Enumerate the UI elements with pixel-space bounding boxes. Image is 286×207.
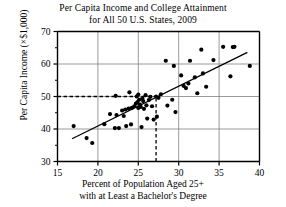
data-point <box>179 73 183 77</box>
data-point <box>221 45 225 49</box>
data-point <box>113 126 117 130</box>
data-point <box>172 64 176 68</box>
data-point <box>248 64 252 68</box>
x-axis-label-line-1: Percent of Population Aged 25+ <box>0 178 286 190</box>
data-point <box>145 117 149 121</box>
data-point <box>188 59 192 63</box>
data-point <box>193 75 197 79</box>
data-point <box>141 99 145 103</box>
data-point <box>142 107 146 111</box>
y-tick-label: 70 <box>41 27 51 37</box>
x-tick-label: 40 <box>255 168 265 178</box>
x-tick-label: 15 <box>53 168 63 178</box>
data-point <box>143 93 147 97</box>
x-tick-label: 25 <box>134 168 144 178</box>
data-point <box>170 98 174 102</box>
data-point <box>211 58 215 62</box>
y-tick-label: 30 <box>41 157 51 167</box>
data-point <box>195 91 199 95</box>
data-point <box>122 114 126 118</box>
data-point <box>173 110 177 114</box>
data-point <box>156 96 160 100</box>
data-point <box>228 74 232 78</box>
data-point <box>90 141 94 145</box>
data-point <box>108 112 112 116</box>
data-point <box>148 95 152 99</box>
scatter-plot-canvas: 3040506070152025303540 <box>0 0 286 207</box>
data-point <box>114 113 118 117</box>
data-point <box>155 115 159 119</box>
data-point <box>186 81 190 85</box>
data-point <box>150 104 154 108</box>
data-point <box>144 103 148 107</box>
data-point <box>72 124 76 128</box>
x-axis-label: Percent of Population Aged 25+ with at L… <box>0 178 286 202</box>
data-point <box>184 86 188 90</box>
chart-figure: Per Capita Income and College Attainment… <box>0 0 286 207</box>
data-point <box>129 122 133 126</box>
data-point <box>136 92 140 96</box>
x-tick-label: 20 <box>93 168 103 178</box>
y-tick-label: 50 <box>41 92 51 102</box>
data-point <box>165 104 169 108</box>
data-points <box>72 45 252 145</box>
data-point <box>114 94 118 98</box>
x-tick-label: 35 <box>214 168 224 178</box>
data-point <box>84 136 88 140</box>
data-point <box>159 92 163 96</box>
data-point <box>164 59 168 63</box>
data-point <box>199 48 203 52</box>
data-point <box>232 45 236 49</box>
data-point <box>124 124 128 128</box>
data-point <box>102 122 106 126</box>
x-axis-label-line-2: with at Least a Bachelor's Degree <box>0 190 286 202</box>
y-tick-label: 60 <box>41 59 51 69</box>
data-point <box>204 85 208 89</box>
tick-labels: 3040506070152025303540 <box>41 27 265 178</box>
data-point <box>152 117 156 121</box>
y-tick-label: 40 <box>41 124 51 134</box>
data-point <box>201 71 205 75</box>
data-point <box>127 90 131 94</box>
data-point <box>117 126 121 130</box>
x-tick-label: 30 <box>174 168 184 178</box>
data-point <box>139 125 143 129</box>
